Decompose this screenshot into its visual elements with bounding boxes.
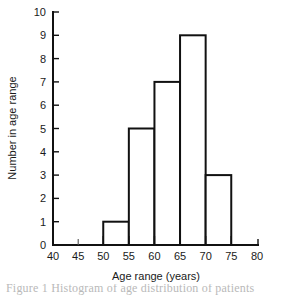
y-axis-title: Number in age range	[6, 76, 18, 179]
y-tick-label-8: 8	[40, 53, 46, 65]
y-tick-label-0: 0	[40, 239, 46, 251]
x-tick-label-75: 75	[225, 250, 237, 262]
caption-strip: Figure 1 Histogram of age distribution o…	[0, 284, 282, 295]
bar-65-70	[180, 35, 206, 245]
y-tick-label-2: 2	[40, 192, 46, 204]
bar-60-65	[154, 82, 180, 245]
y-tick-label-6: 6	[40, 99, 46, 111]
histogram-figure: 0 1 2 3 4 5 6 7 8 9 10 40 45 50 55 60 65…	[0, 0, 282, 295]
x-tick-label-40: 40	[47, 250, 59, 262]
bar-50-55	[103, 222, 129, 245]
y-tick-label-4: 4	[40, 146, 46, 158]
x-tick-label-60: 60	[148, 250, 160, 262]
x-tick-label-65: 65	[174, 250, 186, 262]
y-tick-label-9: 9	[40, 29, 46, 41]
x-tick-label-45: 45	[72, 250, 84, 262]
y-axis-tick-labels: 0 1 2 3 4 5 6 7 8 9 10	[34, 6, 46, 251]
bar-70-75	[206, 175, 232, 245]
x-axis-title: Age range (years)	[112, 270, 200, 282]
x-tick-label-80: 80	[251, 250, 263, 262]
figure-caption: Figure 1 Histogram of age distribution o…	[6, 284, 254, 295]
x-axis-tick-labels: 40 45 50 55 60 65 70 75 80	[47, 250, 263, 262]
y-tick-label-3: 3	[40, 169, 46, 181]
y-tick-label-7: 7	[40, 76, 46, 88]
y-tick-label-10: 10	[34, 6, 46, 18]
bar-55-60	[129, 129, 155, 246]
histogram-chart: 0 1 2 3 4 5 6 7 8 9 10 40 45 50 55 60 65…	[0, 0, 282, 295]
bar-series	[103, 35, 231, 245]
x-tick-label-55: 55	[123, 250, 135, 262]
y-tick-label-1: 1	[40, 216, 46, 228]
x-tick-label-70: 70	[200, 250, 212, 262]
y-tick-label-5: 5	[40, 123, 46, 135]
x-tick-label-50: 50	[97, 250, 109, 262]
